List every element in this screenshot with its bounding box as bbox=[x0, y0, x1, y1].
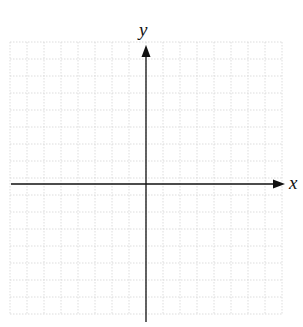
x-axis-label: x bbox=[289, 173, 297, 192]
y-axis-arrow-icon bbox=[142, 45, 151, 57]
coordinate-plane bbox=[0, 0, 303, 327]
x-axis bbox=[11, 180, 285, 189]
x-axis-arrow-icon bbox=[273, 180, 285, 189]
y-axis-label: y bbox=[139, 20, 147, 39]
